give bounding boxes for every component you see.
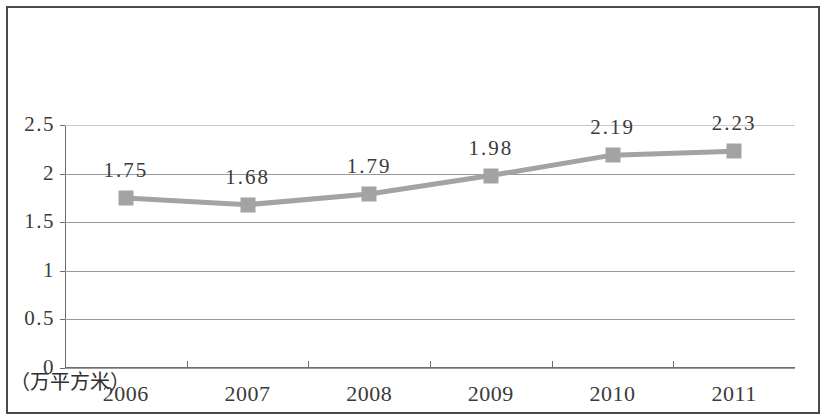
x-axis-tick-label: 2011 [673,383,795,405]
x-axis-tick-label: 2007 [187,383,309,405]
series-line [65,125,795,368]
y-axis-tick-label: 1 [43,260,55,281]
y-axis-tick-label: 2.5 [24,114,55,135]
gridline [65,368,795,369]
y-axis-tick-label: 2 [43,163,55,184]
data-point-label: 2.23 [712,113,757,134]
plot-area: 1.751.681.791.982.192.23 [65,125,795,368]
data-point-label: 2.19 [590,117,635,138]
data-point-label: 1.98 [468,138,513,159]
x-axis-tick-label: 2010 [552,383,674,405]
data-point-marker [727,144,742,159]
data-point-label: 1.79 [347,156,392,177]
data-point-label: 1.68 [225,167,270,188]
x-axis-tick-label: 2009 [430,383,552,405]
data-point-marker [118,190,133,205]
data-point-marker [605,148,620,163]
data-point-marker [240,197,255,212]
chart-container: （万平方米） 1.751.681.791.982.192.23 00.511.5… [0,0,826,420]
y-axis-tick-label: 1.5 [24,211,55,232]
x-axis-tick-label: 2008 [308,383,430,405]
y-axis-tick [60,368,65,369]
data-point-marker [362,187,377,202]
y-axis-tick-label: 0 [43,357,55,378]
y-axis-tick-label: 0.5 [24,308,55,329]
data-point-label: 1.75 [103,160,148,181]
x-axis-tick-label: 2006 [65,383,187,405]
data-point-marker [483,168,498,183]
